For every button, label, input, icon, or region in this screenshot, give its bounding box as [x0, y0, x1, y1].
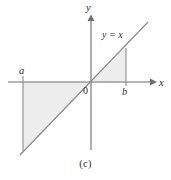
- upper-right-shaded-region: [91, 48, 126, 82]
- x-axis-arrow-icon: [150, 79, 157, 86]
- x-axis-label: x: [158, 77, 164, 88]
- y-axis-label: y: [85, 2, 91, 13]
- equation-label: y = x: [101, 29, 123, 40]
- origin-label: 0: [83, 85, 88, 96]
- point-a-label: a: [19, 65, 24, 76]
- figure-container: y x 0 a b y = x (c): [0, 0, 171, 180]
- figure-caption: (c): [0, 158, 171, 169]
- point-b-label: b: [122, 86, 127, 97]
- y-axis-arrow-icon: [88, 15, 95, 22]
- coordinate-plane-graphic: y x 0 a b y = x: [0, 0, 171, 180]
